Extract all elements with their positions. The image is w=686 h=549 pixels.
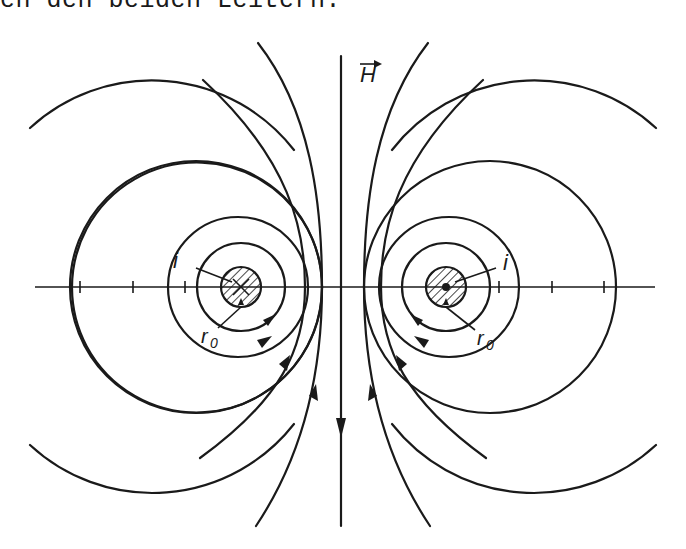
central-field-line <box>336 56 346 526</box>
dot-icon <box>442 283 450 291</box>
horizontal-axis <box>35 281 655 293</box>
right-conductor <box>426 267 496 330</box>
field-label: H <box>360 60 382 87</box>
left-field-lines <box>30 43 322 526</box>
svg-text:H: H <box>360 62 376 87</box>
radius-label-right: r <box>477 327 485 349</box>
radius-pointer <box>218 307 241 328</box>
arrow-icon <box>396 355 407 371</box>
radius-subscript-right: 0 <box>486 337 494 353</box>
arrow-icon <box>414 336 429 348</box>
arrow-icon <box>257 336 272 348</box>
field-diagram: H i i r 0 r 0 <box>0 0 686 549</box>
vector-arrow-icon <box>374 60 382 68</box>
radius-subscript-left: 0 <box>210 335 218 351</box>
current-label-right: i <box>503 250 509 275</box>
radius-pointer <box>446 307 475 330</box>
right-field-lines <box>364 43 656 526</box>
radius-label-left: r <box>201 325 209 347</box>
arrow-icon <box>279 355 290 371</box>
arrow-down-icon <box>336 418 346 438</box>
left-conductor <box>196 267 261 328</box>
